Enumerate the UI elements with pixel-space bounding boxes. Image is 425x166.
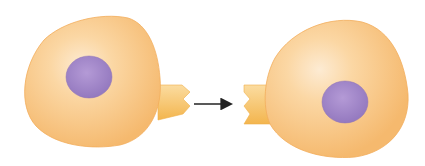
left-cell <box>25 16 190 147</box>
left-cell-connector <box>158 85 190 120</box>
right-cell-nucleus <box>322 81 368 123</box>
right-cell <box>244 20 408 157</box>
left-cell-nucleus <box>66 56 112 98</box>
cell-interaction-diagram <box>0 0 425 166</box>
